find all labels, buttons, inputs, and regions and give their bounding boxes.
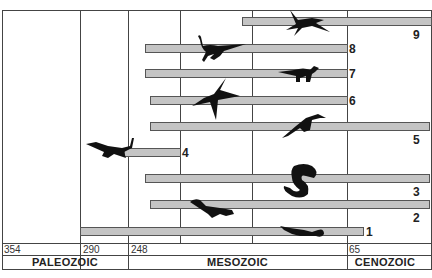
era-mesozoic: MESOZOIC xyxy=(128,256,347,268)
snake-icon xyxy=(280,162,320,200)
label-2: 2 xyxy=(413,211,420,225)
theropod-icon xyxy=(196,34,252,64)
label-4: 4 xyxy=(182,146,189,160)
bar-9 xyxy=(242,17,432,26)
label-8: 8 xyxy=(349,42,356,56)
label-3: 3 xyxy=(413,185,420,199)
tick-65: 65 xyxy=(349,244,360,255)
label-6: 6 xyxy=(349,94,356,108)
small-lizard-icon xyxy=(280,224,326,240)
label-9: 9 xyxy=(413,28,420,42)
bird-icon xyxy=(282,8,332,40)
era-paleozoic: PALEOZOIC xyxy=(2,256,128,268)
pterosaur-icon xyxy=(190,78,242,122)
label-7: 7 xyxy=(349,67,356,81)
crocodile-icon xyxy=(282,110,328,140)
tick-354: 354 xyxy=(4,244,21,255)
label-5: 5 xyxy=(413,133,420,147)
lizard-icon xyxy=(86,136,136,164)
bar-6 xyxy=(150,96,348,105)
salamander-icon xyxy=(190,196,236,220)
era-cenozoic: CENOZOIC xyxy=(347,256,423,268)
tick-290: 290 xyxy=(83,244,100,255)
label-1: 1 xyxy=(366,225,373,239)
tick-248: 248 xyxy=(131,244,148,255)
dinosaur-icon xyxy=(278,64,320,84)
axis-line xyxy=(2,243,432,244)
